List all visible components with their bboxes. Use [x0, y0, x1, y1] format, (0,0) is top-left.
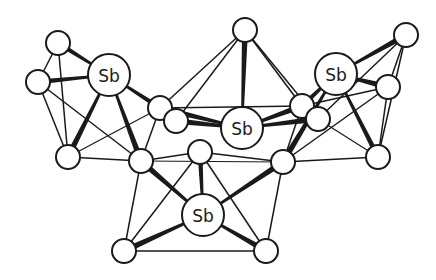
atom-circle — [164, 109, 188, 133]
atom-circle — [129, 149, 153, 173]
bond-a1-a4 — [58, 43, 68, 157]
atom-a5 — [129, 149, 153, 173]
atom-a7 — [271, 150, 295, 174]
atom-circle — [26, 70, 50, 94]
atom-circle — [188, 140, 212, 164]
atom-label: Sb — [98, 66, 120, 86]
atom-sb-Sb1: Sb — [88, 54, 130, 96]
sb-cluster-diagram: SbSbSbSb — [0, 0, 436, 280]
atom-circle — [112, 239, 136, 263]
atom-b1 — [112, 239, 136, 263]
atom-circle — [56, 145, 80, 169]
atom-a9 — [394, 23, 418, 47]
atom-a11 — [366, 145, 390, 169]
bond-a7-a11 — [283, 157, 378, 162]
atom-circle — [271, 150, 295, 174]
atom-circle — [46, 31, 70, 55]
atom-a10 — [376, 75, 400, 99]
atom-a6 — [188, 140, 212, 164]
atom-sb-Sb3: Sb — [315, 53, 357, 95]
bond-a3-a8 — [160, 106, 302, 108]
atom-circle — [376, 75, 400, 99]
atom-a8b — [306, 107, 330, 131]
atom-label: Sb — [231, 119, 253, 139]
atom-a4 — [56, 145, 80, 169]
atom-circle — [394, 23, 418, 47]
atom-top — [233, 18, 257, 42]
atom-circle — [254, 239, 278, 263]
atom-label: Sb — [192, 206, 214, 226]
atom-circle — [233, 18, 257, 42]
atom-a2 — [26, 70, 50, 94]
bond-a5-b1 — [124, 161, 141, 251]
atom-circle — [366, 145, 390, 169]
bond-a3-top — [160, 30, 245, 108]
atom-a1 — [46, 31, 70, 55]
atom-sb-Sb4: Sb — [182, 194, 224, 236]
bond-a5-a7 — [141, 161, 283, 162]
atom-sb-Sb2: Sb — [221, 107, 263, 149]
atom-circle — [306, 107, 330, 131]
atom-b2 — [254, 239, 278, 263]
atom-label: Sb — [325, 65, 347, 85]
cluster-structure-svg: SbSbSbSb — [0, 0, 436, 280]
atom-a3b — [164, 109, 188, 133]
bond-a7-b2 — [266, 162, 283, 251]
